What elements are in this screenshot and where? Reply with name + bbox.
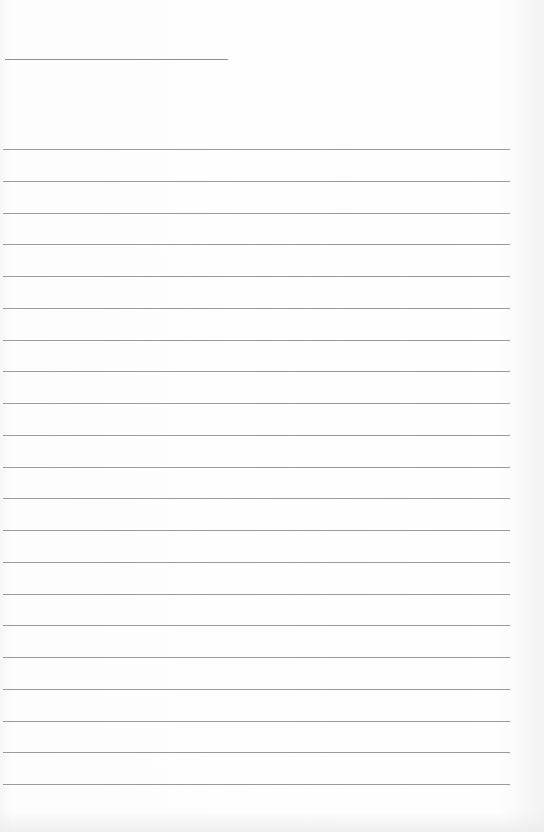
ruled-line [3,657,510,658]
ruled-line [3,689,510,690]
ruled-line [3,562,510,563]
ruled-line [3,625,510,626]
ruled-line [3,371,510,372]
ruled-line [3,467,510,468]
ruled-line [3,308,510,309]
page-bottom-shadow [0,812,544,832]
ruled-line [3,530,510,531]
ruled-line [3,276,510,277]
lined-paper-page [0,0,544,832]
header-name-line [5,59,228,60]
ruled-line [3,149,510,150]
ruled-line [3,181,510,182]
ruled-line [3,403,510,404]
ruled-line [3,244,510,245]
ruled-line [3,340,510,341]
ruled-line [3,435,510,436]
ruled-line [3,498,510,499]
ruled-line [3,752,510,753]
ruled-line [3,784,510,785]
ruled-line [3,213,510,214]
ruled-line [3,721,510,722]
ruled-line [3,594,510,595]
